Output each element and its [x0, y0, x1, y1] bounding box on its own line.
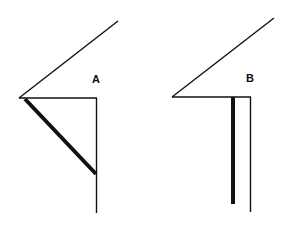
- figure-a-upper-ray: [19, 21, 118, 98]
- figure-a: A: [19, 21, 118, 213]
- figure-b-upper-ray: [172, 18, 274, 97]
- figure-b-label: B: [246, 72, 254, 84]
- figure-b: B: [172, 18, 274, 212]
- figure-a-label: A: [92, 73, 100, 85]
- figure-a-thick-diagonal: [25, 99, 96, 174]
- diagram-canvas: A B: [0, 0, 283, 231]
